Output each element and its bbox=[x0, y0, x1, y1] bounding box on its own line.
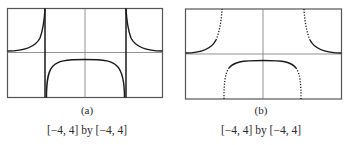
panel-label-a: (a) bbox=[0, 104, 174, 116]
graph-b-plot bbox=[174, 0, 348, 105]
graph-panel-b: (b) [−4, 4] by [−4, 4] bbox=[174, 0, 348, 145]
viewing-window-b: [−4, 4] by [−4, 4] bbox=[174, 124, 348, 136]
graph-panel-a: (a) [−4, 4] by [−4, 4] bbox=[0, 0, 174, 145]
viewing-window-a: [−4, 4] by [−4, 4] bbox=[0, 124, 174, 136]
panel-label-b: (b) bbox=[174, 104, 348, 116]
graph-a-plot bbox=[0, 0, 174, 105]
